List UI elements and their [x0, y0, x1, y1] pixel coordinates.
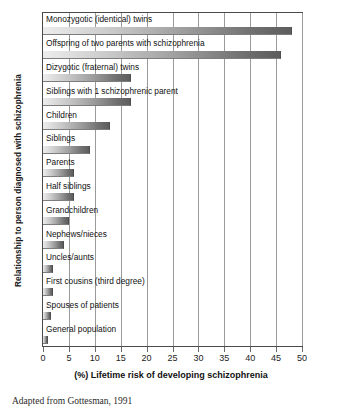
bar-row: Half siblings [43, 180, 302, 204]
bar [43, 51, 281, 59]
bar [43, 217, 69, 225]
bar [43, 288, 53, 296]
bar-row: Dizygotic (fraternal) twins [43, 61, 302, 85]
source-note: Adapted from Gottesman, 1991 [12, 396, 132, 406]
x-tick-50 [302, 347, 303, 352]
bar-category-label: Spouses of patients [46, 299, 119, 311]
x-tick-label-15: 15 [116, 353, 126, 363]
bar [43, 98, 131, 106]
x-tick-label-0: 0 [40, 353, 45, 363]
bar-category-label: Dizygotic (fraternal) twins [46, 61, 139, 73]
bar [43, 74, 131, 82]
bar-row: General population [43, 322, 302, 346]
bar [43, 336, 48, 344]
x-tick-20 [147, 347, 148, 352]
bar [43, 193, 74, 201]
plot-area: Monozygotic (identical) twinsOffspring o… [42, 12, 303, 347]
gridline-50 [302, 13, 303, 346]
bar-category-label: Siblings [46, 132, 75, 144]
x-tick-25 [173, 347, 174, 352]
schizophrenia-risk-bar-chart: Relationship to person diagnosed with sc… [0, 0, 342, 417]
x-axis-title: (%) Lifetime risk of developing schizoph… [0, 370, 342, 380]
bar [43, 265, 53, 273]
bar [43, 312, 51, 320]
bar-row: Parents [43, 156, 302, 180]
x-tick-label-20: 20 [142, 353, 152, 363]
bar-row: Uncles/aunts [43, 251, 302, 275]
bar-row: Grandchildren [43, 203, 302, 227]
bar-row: Siblings [43, 132, 302, 156]
x-tick-label-35: 35 [219, 353, 229, 363]
x-tick-30 [198, 347, 199, 352]
bar-category-label: Uncles/aunts [46, 251, 94, 263]
bar-row: Children [43, 108, 302, 132]
bar-row: Spouses of patients [43, 298, 302, 322]
bar-category-label: Parents [46, 156, 75, 168]
x-axis-tick-labels: 05101520253035404550 [42, 353, 303, 367]
y-axis-title-text: Relationship to person diagnosed with sc… [14, 74, 23, 287]
bar-row: Offspring of two parents with schizophre… [43, 37, 302, 61]
bar-category-label: Children [46, 109, 77, 121]
x-tick-5 [69, 347, 70, 352]
x-tick-40 [250, 347, 251, 352]
x-tick-label-30: 30 [193, 353, 203, 363]
bar [43, 169, 74, 177]
bar-category-label: First cousins (third degree) [46, 275, 145, 287]
x-tick-label-40: 40 [245, 353, 255, 363]
bar-row: Siblings with 1 schizophrenic parent [43, 84, 302, 108]
x-tick-label-5: 5 [66, 353, 71, 363]
x-tick-label-50: 50 [297, 353, 307, 363]
bar-category-label: General population [46, 323, 116, 335]
bar [43, 146, 90, 154]
bar-category-label: Grandchildren [46, 204, 98, 216]
bar [43, 241, 64, 249]
bar-category-label: Siblings with 1 schizophrenic parent [46, 85, 178, 97]
x-tick-15 [121, 347, 122, 352]
x-tick-45 [276, 347, 277, 352]
x-tick-0 [43, 347, 44, 352]
x-tick-label-45: 45 [271, 353, 281, 363]
x-tick-35 [224, 347, 225, 352]
bar-category-label: Monozygotic (identical) twins [46, 13, 152, 25]
bar-category-label: Nephews/nieces [46, 228, 107, 240]
bar-rows: Monozygotic (identical) twinsOffspring o… [43, 13, 302, 346]
x-tick-label-10: 10 [90, 353, 100, 363]
x-tick-10 [95, 347, 96, 352]
bar-category-label: Offspring of two parents with schizophre… [46, 37, 205, 49]
bar-row: Monozygotic (identical) twins [43, 13, 302, 37]
y-axis-title: Relationship to person diagnosed with sc… [0, 0, 36, 360]
x-tick-label-25: 25 [167, 353, 177, 363]
bar [43, 122, 110, 130]
bar-category-label: Half siblings [46, 180, 91, 192]
bar-row: First cousins (third degree) [43, 275, 302, 299]
bar-row: Nephews/nieces [43, 227, 302, 251]
bar [43, 27, 292, 35]
